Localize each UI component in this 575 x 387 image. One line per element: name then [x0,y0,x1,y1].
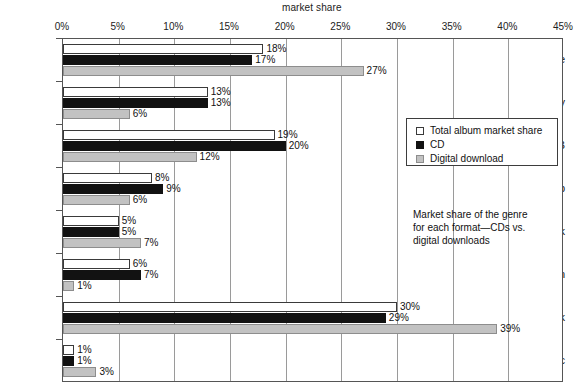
bar-value-label: 29% [389,313,409,323]
bar-value-label: 6% [133,195,147,205]
bar-value-label: 12% [200,152,220,162]
bar-dd-rap [63,195,130,205]
bar-value-label: 13% [211,98,231,108]
annotation-line-3: digital downloads [413,234,563,247]
legend-item-cd: CD [416,138,557,151]
x-axis-tick-label: 20% [275,21,295,32]
bar-cd-rap [63,184,163,194]
legend-swatch-icon-dd [416,155,424,163]
legend-swatch-icon-total [416,127,424,135]
x-axis-tick-label: 30% [386,21,406,32]
bar-value-label: 27% [367,66,387,76]
chart-annotation: Market share of the genre for each forma… [413,208,563,247]
x-axis-tick-label: 5% [110,21,124,32]
bar-dd-electronic [63,367,96,377]
legend-item-total-album-market-share: Total album market share [416,124,557,137]
bar-cd-r-b [63,141,286,151]
annotation-line-1: Market share of the genre [413,208,563,221]
legend-swatch-icon-cd [416,141,424,149]
bar-value-label: 7% [144,270,158,280]
bar-value-label: 39% [500,324,520,334]
bar-dd-latin [63,281,74,291]
x-axis-tick-label: 0% [55,21,69,32]
bar-total-country [63,87,208,97]
bar-total-alternative [63,44,263,54]
bar-cd-electronic [63,356,74,366]
bar-dd-alternative [63,66,364,76]
bar-cd-soundtrack [63,227,119,237]
bar-dd-soundtrack [63,238,141,248]
legend-label-cd: CD [430,139,444,150]
bar-value-label: 20% [289,141,309,151]
bar-value-label: 18% [266,44,286,54]
bar-value-label: 5% [122,227,136,237]
bar-total-latin [63,259,130,269]
legend-label-dd: Digital download [430,153,503,164]
bar-value-label: 1% [77,345,91,355]
bar-value-label: 1% [77,356,91,366]
legend-label-total: Total album market share [430,125,542,136]
bar-dd-rock [63,324,497,334]
bar-dd-country [63,109,130,119]
bar-cd-country [63,98,208,108]
bar-value-label: 6% [133,109,147,119]
bar-value-label: 8% [155,173,169,183]
bar-total-soundtrack [63,216,119,226]
bar-value-label: 17% [255,55,275,65]
x-axis-tick-label: 40% [497,21,517,32]
bar-value-label: 9% [166,184,180,194]
x-axis-tick-label: 25% [330,21,350,32]
bar-total-rock [63,302,397,312]
bar-value-label: 5% [122,216,136,226]
bar-value-label: 19% [278,130,298,140]
bar-cd-latin [63,270,141,280]
x-axis-tick-label: 15% [219,21,239,32]
bar-dd-r-b [63,152,197,162]
x-axis-tick-label: 10% [163,21,183,32]
bar-total-electronic [63,345,74,355]
bar-value-label: 13% [211,87,231,97]
bar-total-rap [63,173,152,183]
bar-value-label: 3% [99,367,113,377]
chart-title: market share [282,2,342,13]
bar-total-r-b [63,130,275,140]
annotation-line-2: for each format—CDs vs. [413,221,563,234]
bar-value-label: 1% [77,281,91,291]
legend: Total album market share CD Digital down… [406,118,558,166]
bar-value-label: 6% [133,259,147,269]
bar-cd-alternative [63,55,252,65]
bar-cd-rock [63,313,386,323]
bar-value-label: 7% [144,238,158,248]
legend-item-digital-download: Digital download [416,152,557,165]
x-axis-tick-label: 45% [553,21,573,32]
x-axis-tick-label: 35% [442,21,462,32]
bar-chart: market share 0%5%10%15%20%25%30%35%40%45… [0,0,575,387]
bar-value-label: 30% [400,302,420,312]
